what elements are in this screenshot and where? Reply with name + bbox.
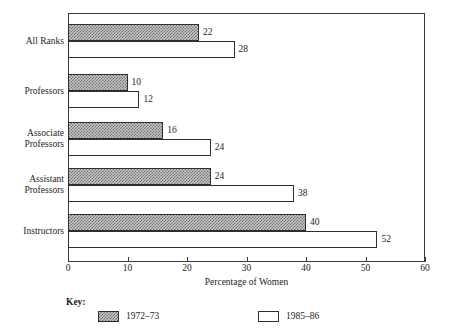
- category-label-line: Professors: [0, 86, 64, 97]
- bar-value-label: 16: [167, 122, 177, 139]
- category-label-line: Associate: [0, 128, 64, 139]
- x-tick-label: 60: [413, 263, 437, 274]
- category-label: Instructors: [0, 226, 64, 237]
- legend-title: Key:: [66, 297, 86, 307]
- category-label-line: Instructors: [0, 226, 64, 237]
- category-label: All Ranks: [0, 36, 64, 47]
- x-tick-mark: [68, 257, 69, 262]
- x-axis-title: Percentage of Women: [68, 277, 425, 287]
- legend: Key: 1972–73 1985–86: [0, 297, 449, 334]
- legend-swatch-speckle-icon: [258, 311, 279, 322]
- category-label: AssistantProfessors: [0, 174, 64, 196]
- x-tick-label: 20: [175, 263, 199, 274]
- bar-1972-73: [68, 168, 211, 185]
- category-label-line: Professors: [0, 139, 64, 150]
- category-axis-labels: All RanksProfessorsAssociateProfessorsAs…: [0, 13, 64, 262]
- category-label-line: Assistant: [0, 174, 64, 185]
- x-tick-mark: [425, 257, 426, 262]
- x-tick-label: 0: [56, 263, 80, 274]
- bar-value-label: 24: [215, 139, 225, 156]
- x-tick-label: 50: [354, 263, 378, 274]
- bar-1985-86: [68, 139, 211, 156]
- bar-1972-73: [68, 24, 199, 41]
- bar-value-label: 38: [298, 185, 308, 202]
- bar-1972-73: [68, 214, 306, 231]
- bar-value-label: 24: [215, 168, 225, 185]
- bar-1972-73: [68, 74, 128, 91]
- bar-value-label: 22: [203, 24, 213, 41]
- legend-label: 1972–73: [126, 310, 159, 323]
- bar-value-label: 40: [310, 214, 320, 231]
- x-tick-mark: [366, 257, 367, 262]
- category-label-line: Professors: [0, 185, 64, 196]
- bar-value-label: 28: [239, 41, 249, 58]
- bar-1985-86: [68, 231, 377, 248]
- bar-1985-86: [68, 91, 139, 108]
- x-tick-mark: [187, 257, 188, 262]
- x-tick-label: 30: [235, 263, 259, 274]
- x-tick-label: 10: [116, 263, 140, 274]
- bar-1985-86: [68, 185, 294, 202]
- x-tick-label: 40: [294, 263, 318, 274]
- bar-value-label: 12: [143, 91, 153, 108]
- category-label: AssociateProfessors: [0, 128, 64, 150]
- bar-1985-86: [68, 41, 235, 58]
- x-tick-mark: [306, 257, 307, 262]
- category-label: Professors: [0, 86, 64, 97]
- bar-chart: All RanksProfessorsAssociateProfessorsAs…: [0, 0, 449, 334]
- bar-value-label: 52: [381, 231, 391, 248]
- bar-1972-73: [68, 122, 163, 139]
- x-axis: 0102030405060: [0, 262, 449, 276]
- legend-swatch-crosshatch-icon: [98, 311, 119, 322]
- category-label-line: All Ranks: [0, 36, 64, 47]
- bar-value-label: 10: [132, 74, 142, 91]
- x-tick-mark: [128, 257, 129, 262]
- x-tick-mark: [247, 257, 248, 262]
- legend-label: 1985–86: [286, 310, 319, 323]
